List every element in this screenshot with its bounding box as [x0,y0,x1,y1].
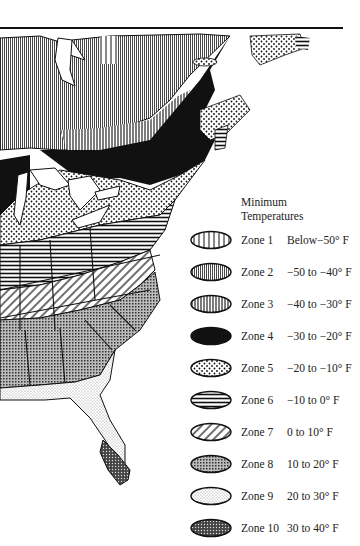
solid-black-swatch-icon [188,325,234,347]
zone-label: Zone 7 [241,426,287,438]
crosshatch-swatch-icon [188,453,234,475]
legend-row-zone-1: Zone 1 Below−50° F [188,229,349,251]
zone-label: Zone 8 [241,458,287,470]
horizontal-lines-swatch-icon [188,389,234,411]
zone-range: Below−50° F [287,234,349,246]
zone-range: 10 to 20° F [287,458,339,470]
zone-label: Zone 9 [241,490,287,502]
zone-label: Zone 10 [241,522,287,534]
zone-range: −40 to −30° F [287,298,352,310]
legend-row-zone-2: Zone 2 −50 to −40° F [188,261,352,283]
legend-row-zone-5: Zone 5 −20 to −10° F [188,357,352,379]
legend-row-zone-3: Zone 3 −40 to −30° F [188,293,352,315]
legend-title-line1: Minimum [241,195,303,209]
zone-range: −30 to −20° F [287,330,352,342]
legend-row-zone-8: Zone 8 10 to 20° F [188,453,339,475]
zone-range: −10 to 0° F [287,394,339,406]
legend-title: Minimum Temperatures [241,195,303,223]
legend-row-zone-4: Zone 4 −30 to −20° F [188,325,352,347]
legend-row-zone-9: Zone 9 20 to 30° F [188,485,339,507]
zone-label: Zone 4 [241,330,287,342]
vertical-lines-swatch-icon [188,229,234,251]
legend-row-zone-7: Zone 7 0 to 10° F [188,421,333,443]
zone-label: Zone 5 [241,362,287,374]
zone-label: Zone 6 [241,394,287,406]
stipple-swatch-icon [188,485,234,507]
zone-label: Zone 3 [241,298,287,310]
diagonal-lines-swatch-icon [188,421,234,443]
dark-crosshatch-swatch-icon [188,517,234,539]
zone-range: −20 to −10° F [287,362,352,374]
zone-range: 30 to 40° F [287,522,339,534]
zone-range: 20 to 30° F [287,490,339,502]
zone-label: Zone 1 [241,234,287,246]
zone-range: −50 to −40° F [287,266,352,278]
fine-vertical-swatch-icon [188,261,234,283]
legend-title-line2: Temperatures [241,209,303,223]
zone-label: Zone 2 [241,266,287,278]
legend-row-zone-6: Zone 6 −10 to 0° F [188,389,339,411]
dense-vertical-swatch-icon [188,293,234,315]
legend-row-zone-10: Zone 10 30 to 40° F [188,517,339,539]
zone-range: 0 to 10° F [287,426,333,438]
dots-swatch-icon [188,357,234,379]
